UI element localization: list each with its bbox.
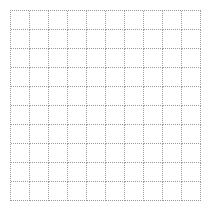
- grid-cell[interactable]: [87, 11, 106, 30]
- grid-cell[interactable]: [68, 11, 87, 30]
- grid-cell[interactable]: [144, 163, 163, 182]
- grid-cell[interactable]: [87, 87, 106, 106]
- grid-cell[interactable]: [125, 11, 144, 30]
- grid-cell[interactable]: [125, 106, 144, 125]
- grid-cell[interactable]: [163, 30, 182, 49]
- grid-cell[interactable]: [163, 87, 182, 106]
- grid-cell[interactable]: [144, 11, 163, 30]
- grid-cell[interactable]: [106, 68, 125, 87]
- grid-cell[interactable]: [125, 163, 144, 182]
- grid-cell[interactable]: [30, 68, 49, 87]
- grid-cell[interactable]: [11, 68, 30, 87]
- grid-cell[interactable]: [87, 144, 106, 163]
- grid-cell[interactable]: [125, 125, 144, 144]
- grid-cell[interactable]: [68, 125, 87, 144]
- grid-cell[interactable]: [182, 106, 201, 125]
- grid-cell[interactable]: [163, 68, 182, 87]
- grid-cell[interactable]: [163, 125, 182, 144]
- grid-cell[interactable]: [11, 30, 30, 49]
- grid-cell[interactable]: [87, 182, 106, 201]
- grid-cell[interactable]: [106, 163, 125, 182]
- grid-cell[interactable]: [30, 163, 49, 182]
- grid-cell[interactable]: [30, 125, 49, 144]
- grid-cell[interactable]: [49, 182, 68, 201]
- grid-cell[interactable]: [68, 49, 87, 68]
- grid-cell[interactable]: [49, 106, 68, 125]
- grid-cell[interactable]: [87, 163, 106, 182]
- grid-cell[interactable]: [49, 30, 68, 49]
- grid-cell[interactable]: [182, 30, 201, 49]
- grid-cell[interactable]: [144, 144, 163, 163]
- grid-cell[interactable]: [144, 30, 163, 49]
- grid-cell[interactable]: [30, 30, 49, 49]
- grid-cell[interactable]: [182, 68, 201, 87]
- grid-cell[interactable]: [106, 106, 125, 125]
- grid-cell[interactable]: [163, 163, 182, 182]
- grid-cell[interactable]: [11, 11, 30, 30]
- grid-cell[interactable]: [68, 182, 87, 201]
- grid-cell[interactable]: [182, 49, 201, 68]
- grid-cell[interactable]: [30, 182, 49, 201]
- grid-cell[interactable]: [144, 68, 163, 87]
- grid-cell[interactable]: [68, 30, 87, 49]
- grid-cell[interactable]: [144, 49, 163, 68]
- grid-cell[interactable]: [30, 11, 49, 30]
- grid-cell[interactable]: [30, 87, 49, 106]
- grid-cell[interactable]: [30, 144, 49, 163]
- grid-cell[interactable]: [125, 30, 144, 49]
- grid-cell[interactable]: [49, 87, 68, 106]
- grid-cell[interactable]: [11, 106, 30, 125]
- grid-cell[interactable]: [49, 49, 68, 68]
- grid-cell[interactable]: [11, 182, 30, 201]
- grid-cell[interactable]: [30, 106, 49, 125]
- grid-cell[interactable]: [11, 144, 30, 163]
- grid-cell[interactable]: [68, 106, 87, 125]
- grid-cell[interactable]: [49, 144, 68, 163]
- grid-cell[interactable]: [163, 182, 182, 201]
- grid-cell[interactable]: [68, 68, 87, 87]
- grid-cell[interactable]: [182, 182, 201, 201]
- grid-cell[interactable]: [144, 106, 163, 125]
- grid-cell[interactable]: [87, 68, 106, 87]
- grid-cell[interactable]: [68, 163, 87, 182]
- grid-cell[interactable]: [11, 125, 30, 144]
- grid-cell[interactable]: [163, 106, 182, 125]
- grid-cell[interactable]: [49, 68, 68, 87]
- grid-cell[interactable]: [182, 11, 201, 30]
- grid-cell[interactable]: [182, 125, 201, 144]
- grid-cell[interactable]: [144, 182, 163, 201]
- grid-cell[interactable]: [144, 125, 163, 144]
- grid-cell[interactable]: [125, 68, 144, 87]
- grid-cell[interactable]: [68, 87, 87, 106]
- grid-cell[interactable]: [68, 144, 87, 163]
- grid-cell[interactable]: [49, 125, 68, 144]
- grid-cell[interactable]: [87, 125, 106, 144]
- grid-cell[interactable]: [125, 144, 144, 163]
- grid-cell[interactable]: [182, 87, 201, 106]
- grid-cell[interactable]: [163, 144, 182, 163]
- grid-cell[interactable]: [87, 106, 106, 125]
- grid-cell[interactable]: [87, 49, 106, 68]
- grid-cell[interactable]: [163, 49, 182, 68]
- grid-cell[interactable]: [30, 49, 49, 68]
- grid-cell[interactable]: [144, 87, 163, 106]
- grid-cell[interactable]: [106, 11, 125, 30]
- grid-cell[interactable]: [182, 163, 201, 182]
- grid-cell[interactable]: [106, 30, 125, 49]
- grid-cell[interactable]: [125, 87, 144, 106]
- grid-cell[interactable]: [106, 125, 125, 144]
- grid-cell[interactable]: [11, 163, 30, 182]
- grid-cell[interactable]: [106, 49, 125, 68]
- grid-cell[interactable]: [106, 87, 125, 106]
- grid-cell[interactable]: [106, 182, 125, 201]
- grid-cell[interactable]: [125, 49, 144, 68]
- grid-cell[interactable]: [87, 30, 106, 49]
- grid-cell[interactable]: [106, 144, 125, 163]
- grid-cell[interactable]: [11, 87, 30, 106]
- grid-cell[interactable]: [49, 163, 68, 182]
- grid-cell[interactable]: [11, 49, 30, 68]
- grid-cell[interactable]: [182, 144, 201, 163]
- grid-cell[interactable]: [163, 11, 182, 30]
- grid-cell[interactable]: [49, 11, 68, 30]
- grid-cell[interactable]: [125, 182, 144, 201]
